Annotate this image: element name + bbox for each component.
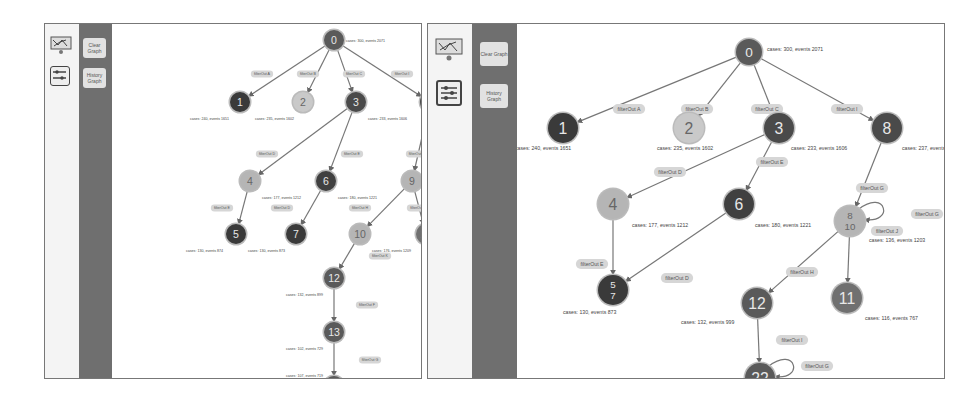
graph-edge[interactable] <box>768 231 838 293</box>
graph-node[interactable]: 0 <box>323 29 346 52</box>
graph-node[interactable]: 4 <box>597 188 630 221</box>
graph-node[interactable]: 2 <box>673 112 706 145</box>
graph-node[interactable]: 11 <box>415 223 422 246</box>
graph-edge[interactable] <box>339 243 355 270</box>
edge-filter-label[interactable]: filterOut E <box>756 157 788 167</box>
node-stats: cases: 233, events 1606 <box>791 145 847 151</box>
graph-node[interactable]: 14 <box>323 375 346 379</box>
edge-filter-label[interactable]: filterOut J <box>871 226 903 236</box>
history-graph-button[interactable]: History Graph <box>480 84 508 108</box>
edge-filter-label[interactable]: filterOut G <box>801 361 833 371</box>
graph-node[interactable]: 11 <box>831 282 864 315</box>
edge-filter-label[interactable]: filterOut I <box>831 104 863 114</box>
edge-filter-label[interactable]: filterOut E <box>576 259 608 269</box>
graph-node[interactable]: 13 <box>323 321 346 344</box>
graph-edge[interactable] <box>848 236 850 283</box>
svg-text:filterOut G: filterOut G <box>362 358 379 362</box>
edge-filter-label[interactable]: filterOut D <box>654 167 686 177</box>
edge-filter-label[interactable]: filterOut A <box>251 71 273 78</box>
process-map-icon[interactable] <box>50 36 72 56</box>
clear-graph-button[interactable]: Clear Graph <box>480 42 508 66</box>
svg-text:filterOut I: filterOut I <box>836 106 857 112</box>
graph-edge[interactable] <box>577 57 737 122</box>
graph-node[interactable]: 6 <box>723 188 756 221</box>
graph-node[interactable]: 7 <box>285 223 308 246</box>
history-graph-button[interactable]: History Graph <box>83 68 106 88</box>
graph-edge[interactable] <box>367 188 405 227</box>
edge-filter-label[interactable]: filterOut J <box>407 205 421 212</box>
edge-filter-label[interactable]: filterOut D <box>271 205 293 212</box>
node-stats: cases: 240, events 1651 <box>517 145 571 151</box>
graph-node[interactable]: 10 <box>349 223 372 246</box>
process-map-icon[interactable] <box>435 38 463 62</box>
graph-edge[interactable] <box>758 318 760 363</box>
edge-filter-label[interactable]: filterOut D <box>661 273 693 283</box>
graph-node[interactable]: 8 <box>419 91 422 114</box>
process-graph: filterOut AfilterOut BfilterOut CfilterO… <box>112 24 421 378</box>
graph-edge[interactable] <box>301 190 321 226</box>
graph-canvas[interactable]: filterOut AfilterOut BfilterOut CfilterO… <box>112 24 421 378</box>
node-id-label: 12 <box>748 295 766 312</box>
graph-edge[interactable] <box>239 191 248 225</box>
node-id-label: 0 <box>331 34 337 46</box>
filter-sliders-icon[interactable] <box>50 66 70 86</box>
node-id-label: 3 <box>353 96 359 108</box>
edge-filter-label[interactable]: filterOut E <box>341 151 363 158</box>
graph-node[interactable]: 12 <box>741 287 774 320</box>
clear-graph-button[interactable]: Clear Graph <box>83 38 106 58</box>
node-stats: cases: 177, events 1212 <box>262 196 301 200</box>
svg-text:filterOut C: filterOut C <box>755 106 779 112</box>
edge-filter-label[interactable]: filterOut G <box>856 183 888 193</box>
graph-node[interactable]: 1 <box>547 112 580 145</box>
edge-filter-label[interactable]: filterOut A <box>613 104 645 114</box>
edge-filter-label[interactable]: filterOut E <box>211 205 233 212</box>
edge-filter-label[interactable]: filterOut B <box>297 71 319 78</box>
node-stats: cases: 136, events 1203 <box>869 237 925 243</box>
graph-node[interactable]: 2 <box>292 91 315 114</box>
graph-edge[interactable] <box>627 134 766 198</box>
graph-node[interactable]: 8 <box>871 112 904 145</box>
graph-node[interactable]: 57 <box>597 274 630 307</box>
svg-text:filterOut H: filterOut H <box>790 269 814 275</box>
graph-node[interactable]: 1 <box>229 91 252 114</box>
svg-text:filterOut A: filterOut A <box>254 72 270 76</box>
graph-node[interactable]: 6 <box>315 170 338 193</box>
graph-edge[interactable] <box>414 112 421 171</box>
node-stats: cases: 107, events 719 <box>286 374 323 378</box>
edge-filter-label[interactable]: filterOut H <box>349 205 371 212</box>
graph-node[interactable]: 5 <box>225 223 248 246</box>
edge-filter-label[interactable]: filterOut K <box>369 253 391 260</box>
edge-filter-label[interactable]: filterOut I <box>391 71 413 78</box>
svg-text:filterOut J: filterOut J <box>876 228 899 234</box>
graph-node[interactable]: 4 <box>239 170 262 193</box>
node-id-label: 11 <box>839 290 855 307</box>
svg-text:filterOut G: filterOut G <box>805 363 829 369</box>
edge-filter-label[interactable]: filterOut D <box>256 151 278 158</box>
node-stats: cases: 180, events 1221 <box>338 196 377 200</box>
edge-filter-label[interactable]: filterOut C <box>343 71 365 78</box>
graph-edge[interactable] <box>330 111 353 171</box>
edge-filter-label[interactable]: filterOut F <box>356 302 378 309</box>
edge-filter-label[interactable]: filterOut G <box>406 151 421 158</box>
graph-node[interactable]: 0 <box>735 38 764 67</box>
svg-text:filterOut C: filterOut C <box>346 72 363 76</box>
graph-canvas[interactable]: filterOut AfilterOut BfilterOut CfilterO… <box>517 24 944 378</box>
graph-node[interactable]: 810 <box>834 205 867 238</box>
node-id-label: 8 <box>883 120 892 137</box>
sidebar: Clear Graph History Graph <box>79 24 112 378</box>
graph-node[interactable]: 12 <box>323 267 346 290</box>
node-stats: cases: 235, events 1602 <box>255 117 294 121</box>
edge-filter-label[interactable]: filterOut G <box>911 209 943 219</box>
node-id-label: 22 <box>751 370 769 378</box>
edge-filter-label[interactable]: filterOut I <box>776 335 808 345</box>
svg-text:filterOut I: filterOut I <box>395 72 410 76</box>
graph-edge[interactable] <box>856 142 882 207</box>
graph-node[interactable]: 3 <box>345 91 368 114</box>
edge-filter-label[interactable]: filterOut G <box>359 357 381 364</box>
node-id-label: 5 <box>233 228 239 240</box>
edge-filter-label[interactable]: filterOut H <box>786 267 818 277</box>
filter-sliders-icon[interactable] <box>436 80 462 106</box>
graph-node[interactable]: 3 <box>763 112 796 145</box>
sidebar: Clear Graph History Graph <box>472 24 517 378</box>
node-stats: cases: 300, events 2071 <box>346 39 385 43</box>
